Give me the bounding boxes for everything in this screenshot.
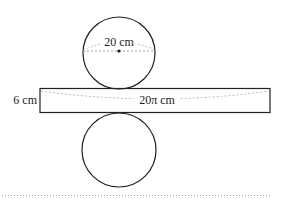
cylinder-net-diagram: 20 cm 20π cm 6 cm [0, 0, 286, 200]
center-point [117, 49, 120, 52]
height-label: 6 cm [13, 93, 37, 107]
lateral-surface-rectangle: 20π cm 6 cm [13, 89, 270, 113]
circumference-label: 20π cm [139, 93, 175, 107]
bottom-base-circle [82, 113, 156, 187]
diameter-label: 20 cm [104, 35, 134, 49]
top-base-circle: 20 cm [83, 17, 155, 89]
